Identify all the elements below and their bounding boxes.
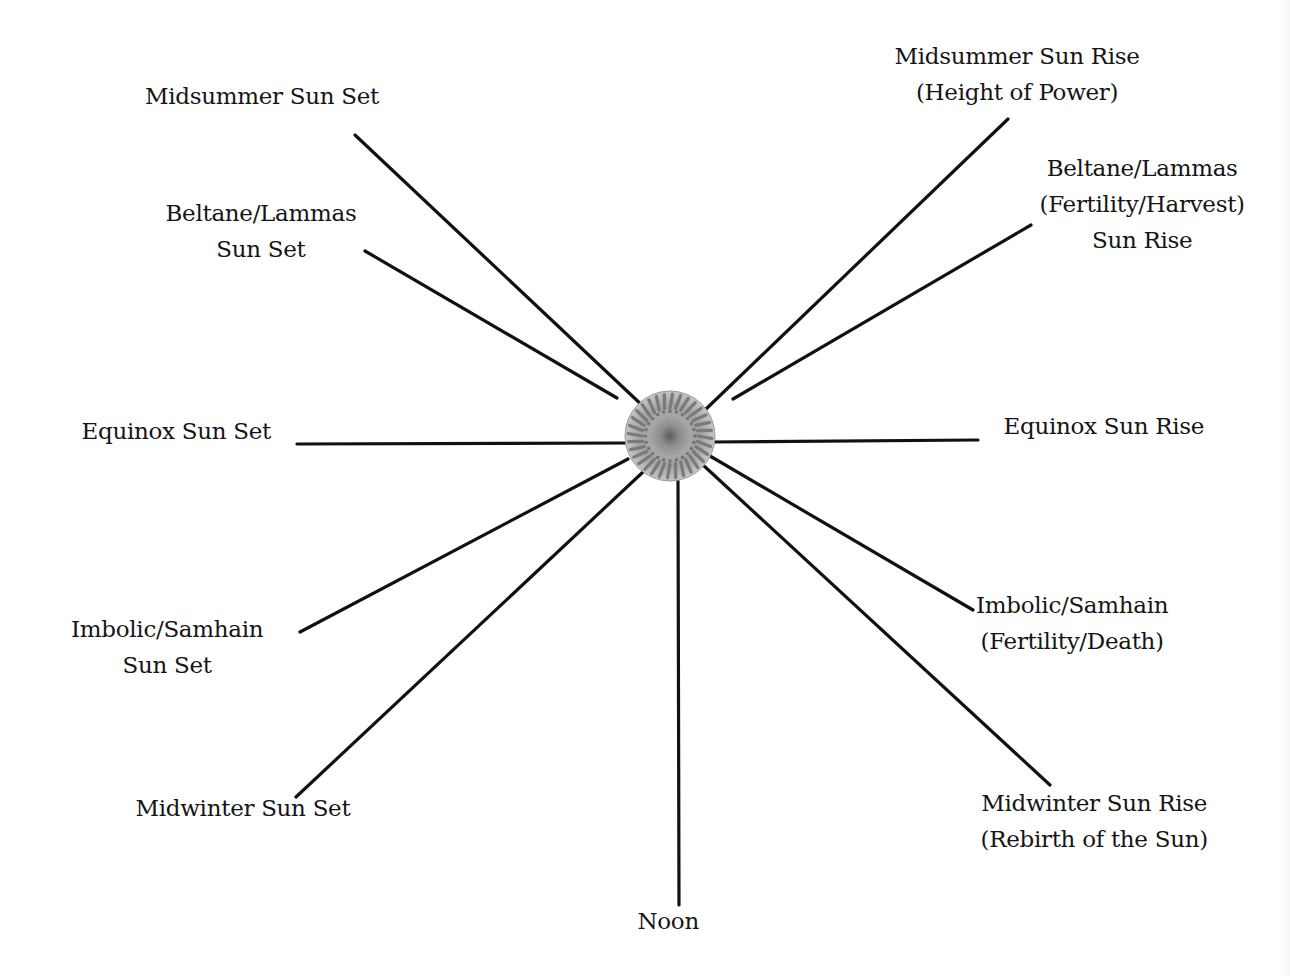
label-line: Sun Rise <box>1040 222 1245 258</box>
label-line: Imbolic/Samhain <box>71 611 263 647</box>
label-equinox-sun-rise: Equinox Sun Rise <box>1004 408 1205 444</box>
label-imbolic-samhain-sun-set: Imbolic/SamhainSun Set <box>71 611 263 683</box>
label-line: Equinox Sun Set <box>82 413 271 449</box>
spoke-line-imbolic-samhain-sun-set <box>300 459 628 632</box>
label-noon: Noon <box>638 903 699 939</box>
spoke-line-equinox-sun-rise <box>712 440 978 442</box>
spoke-line-midwinter-sun-set <box>296 472 643 797</box>
label-midwinter-sun-rise: Midwinter Sun Rise(Rebirth of the Sun) <box>981 785 1208 857</box>
spoke-line-beltane-lammas-sun-rise <box>733 225 1031 399</box>
label-line: Midsummer Sun Rise <box>895 38 1140 74</box>
label-line: Beltane/Lammas <box>1040 150 1245 186</box>
spoke-line-imbolic-samhain-sun-rise <box>710 456 973 610</box>
label-line: (Height of Power) <box>895 74 1140 110</box>
label-line: Noon <box>638 903 699 939</box>
sun-disc-icon <box>625 391 715 481</box>
label-line: Sun Set <box>166 231 357 267</box>
label-line: (Fertility/Death) <box>976 623 1168 659</box>
label-line: (Fertility/Harvest) <box>1040 186 1245 222</box>
label-line: Sun Set <box>71 647 263 683</box>
label-line: Midwinter Sun Set <box>136 790 351 826</box>
label-line: (Rebirth of the Sun) <box>981 821 1208 857</box>
label-imbolic-samhain-sun-rise: Imbolic/Samhain(Fertility/Death) <box>976 587 1168 659</box>
spoke-line-beltane-lammas-sun-set <box>365 251 617 398</box>
spoke-lines <box>296 119 1050 905</box>
page-edge <box>1282 0 1290 976</box>
label-line: Beltane/Lammas <box>166 195 357 231</box>
label-equinox-sun-set: Equinox Sun Set <box>82 413 271 449</box>
label-midsummer-sun-rise: Midsummer Sun Rise(Height of Power) <box>895 38 1140 110</box>
label-midwinter-sun-set: Midwinter Sun Set <box>136 790 351 826</box>
label-beltane-lammas-sun-set: Beltane/LammasSun Set <box>166 195 357 267</box>
spoke-line-noon <box>678 481 679 905</box>
label-line: Imbolic/Samhain <box>976 587 1168 623</box>
label-line: Equinox Sun Rise <box>1004 408 1205 444</box>
label-midsummer-sun-set: Midsummer Sun Set <box>145 78 379 114</box>
sun-core <box>648 414 691 457</box>
label-line: Midwinter Sun Rise <box>981 785 1208 821</box>
label-line: Midsummer Sun Set <box>145 78 379 114</box>
spoke-line-equinox-sun-set <box>297 443 628 444</box>
label-beltane-lammas-sun-rise: Beltane/Lammas(Fertility/Harvest)Sun Ris… <box>1040 150 1245 258</box>
